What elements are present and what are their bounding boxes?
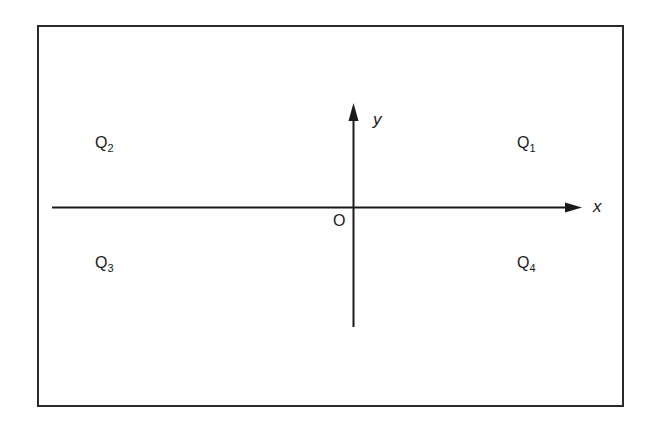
quadrant-label-q3: Q3	[95, 255, 114, 271]
coordinate-axes	[0, 0, 653, 421]
x-axis-arrowhead-icon	[565, 203, 582, 213]
y-axis-label: y	[373, 111, 382, 128]
origin-label: O	[333, 213, 345, 229]
quadrant-label-q2: Q2	[95, 135, 114, 151]
quadrant-subscript: 2	[107, 142, 113, 154]
quadrant-subscript: 3	[107, 262, 113, 274]
quadrant-letter: Q	[517, 254, 529, 271]
quadrant-label-q1: Q1	[517, 135, 536, 151]
x-axis-label: x	[593, 198, 602, 215]
quadrant-letter: Q	[517, 134, 529, 151]
quadrant-subscript: 1	[529, 142, 535, 154]
y-axis-arrowhead-icon	[349, 103, 359, 121]
quadrant-label-q4: Q4	[517, 255, 536, 271]
quadrant-subscript: 4	[529, 262, 535, 274]
quadrant-letter: Q	[95, 134, 107, 151]
quadrant-letter: Q	[95, 254, 107, 271]
